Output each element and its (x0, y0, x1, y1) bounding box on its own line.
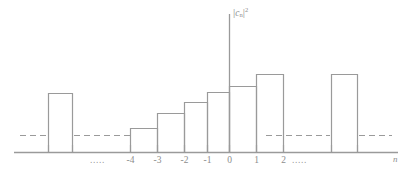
tick-label-n-minus-2: -2 (176, 156, 193, 166)
tick-label-n-minus-3: -3 (149, 156, 166, 166)
tick-label-n-minus-4: -4 (122, 156, 139, 166)
y-axis-label: |cn|2 (233, 7, 248, 19)
bar-n-0 (230, 87, 257, 153)
bar-group-main (131, 75, 284, 153)
tick-label-n-0: 0 (223, 156, 236, 166)
x-axis-ticks (49, 145, 358, 153)
bar-n-minus-3 (158, 114, 185, 153)
figure-container: |cn|2 ..... ..... -4 -3 -2 -1 0 1 2 n (0, 0, 412, 175)
y-axis-label-exponent: 2 (245, 6, 248, 13)
ellipsis-left: ..... (90, 156, 105, 166)
x-axis-label: n (393, 155, 398, 164)
bar-n-1 (257, 75, 284, 153)
spectrum-bar-chart (0, 0, 412, 175)
tick-label-n-minus-1: -1 (199, 156, 216, 166)
tick-label-n-1: 1 (250, 156, 263, 166)
bar-n-minus-4 (131, 129, 158, 153)
ellipsis-right: ..... (292, 156, 307, 166)
bar-n-minus-1 (208, 93, 230, 153)
tick-label-n-2: 2 (277, 156, 290, 166)
bar-right-outlier (332, 75, 358, 153)
bar-left-outlier (49, 94, 73, 153)
bar-n-minus-2 (185, 103, 208, 153)
